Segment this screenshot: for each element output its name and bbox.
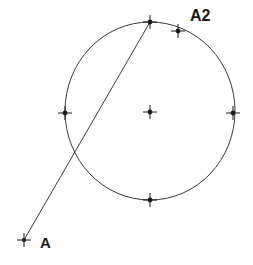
marker-circle-right [226,106,240,120]
marker-circle-center-dot [148,110,153,115]
marker-circle-left [58,106,72,120]
marker-circle-top [143,15,157,29]
marker-circle-left-dot [63,111,68,116]
marker-point-a2-dot [176,29,181,34]
marker-circle-right-dot [231,111,236,116]
marker-circle-bottom-dot [148,198,153,203]
line-layer [24,22,150,240]
marker-point-a [17,233,31,247]
diagram-canvas: AA2 [0,0,253,265]
geometry-drawing: AA2 [0,0,253,265]
marker-circle-center [143,105,157,119]
point-a-label: A [40,234,51,251]
point-a2-label: A2 [190,7,211,24]
label-layer: AA2 [40,7,211,251]
marker-point-a-dot [22,238,26,242]
marker-circle-bottom [143,193,157,207]
secant-line [24,22,150,240]
marker-layer [17,15,240,247]
marker-circle-top-dot [148,20,153,25]
marker-point-a2 [171,24,185,38]
